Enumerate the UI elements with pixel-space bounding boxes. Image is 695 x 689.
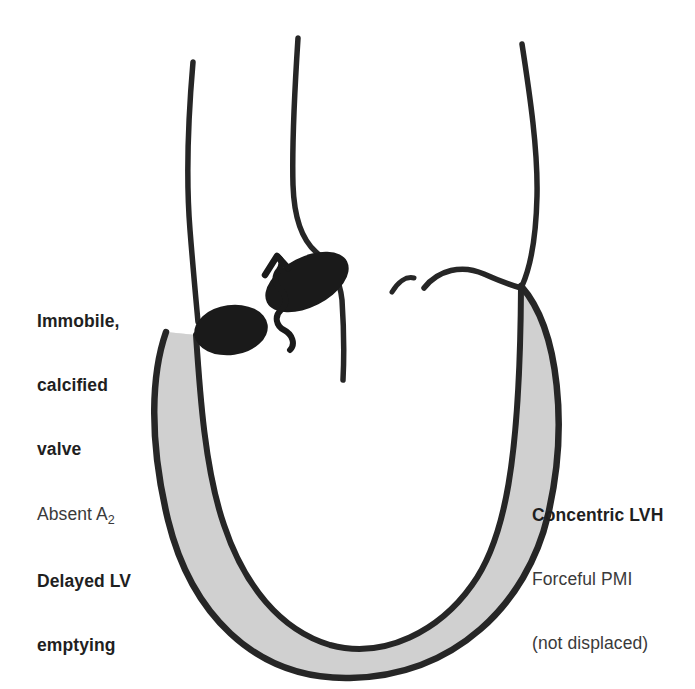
- annotation-lvh-detail-1: Forceful PMI: [532, 568, 663, 591]
- annotation-calcified-valve: Immobile, calcified valve Absent A2: [37, 268, 120, 569]
- annotation-concentric-lvh: Concentric LVH Forceful PMI (not displac…: [532, 462, 663, 689]
- aorta-left-wall: [188, 62, 198, 322]
- annotation-valve-detail-1: Absent A2: [37, 503, 120, 528]
- annotation-valve-detail-1-subscript: 2: [108, 512, 115, 526]
- annotation-emptying-heading-line2: emptying: [37, 634, 238, 657]
- annotation-valve-heading-line2: calcified: [37, 374, 120, 397]
- annotation-valve-detail-1-text: Absent A: [37, 504, 108, 524]
- annotation-lvh-detail-2: (not displaced): [532, 632, 663, 655]
- annotation-emptying-heading-line1: Delayed LV: [37, 570, 238, 593]
- aorta-right-wall: [522, 44, 537, 286]
- annotation-lvh-heading-line1: Concentric LVH: [532, 504, 663, 527]
- figure-root: Immobile, calcified valve Absent A2 Dela…: [0, 0, 695, 689]
- annotation-valve-heading-line3: valve: [37, 438, 120, 461]
- atrioventricular-arc: [424, 269, 521, 288]
- annotation-valve-heading-line1: Immobile,: [37, 310, 120, 333]
- annotation-delayed-lv-emptying: Delayed LV emptying Late peaking murmur …: [37, 528, 238, 689]
- atrioventricular-arc-small: [392, 278, 414, 292]
